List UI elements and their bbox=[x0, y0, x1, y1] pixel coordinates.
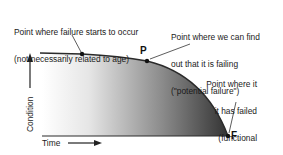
failure-start-line2: (not necessarily related to age) bbox=[14, 55, 138, 64]
f-label: F bbox=[231, 130, 237, 141]
functional-failure-line1: Point where it bbox=[206, 80, 257, 89]
time-axis-label: Time bbox=[42, 138, 60, 148]
functional-failure-line2: it has failed bbox=[206, 107, 257, 116]
p-point-dot bbox=[145, 59, 149, 63]
p-label: P bbox=[140, 45, 147, 56]
condition-axis-label: Condition bbox=[25, 97, 35, 132]
time-arrow-head-icon bbox=[94, 140, 102, 146]
functional-failure-annotation: Point where it it has failed (functional… bbox=[206, 62, 257, 155]
failure-start-line1: Point where failure starts to occur bbox=[14, 28, 138, 37]
potential-failure-line1: Point where we can find bbox=[171, 33, 260, 42]
pf-curve-diagram: Point where failure starts to occur (not… bbox=[0, 0, 283, 155]
failure-start-annotation: Point where failure starts to occur (not… bbox=[14, 10, 138, 82]
